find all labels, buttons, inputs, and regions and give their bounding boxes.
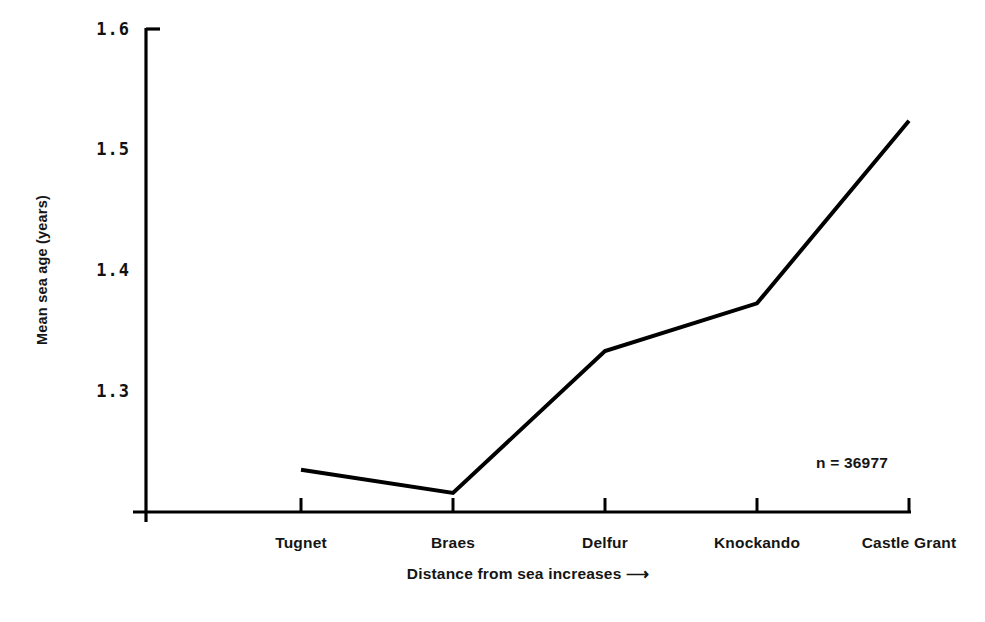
y-tick-label-1-6: 1.6 xyxy=(62,19,130,39)
x-axis-title: Distance from sea increases ⟶ xyxy=(146,565,910,583)
x-tick-label-castle-grant: Castle Grant xyxy=(862,534,957,552)
y-tick-label-1-3: 1.3 xyxy=(62,381,130,401)
y-tick-label-1-4: 1.4 xyxy=(62,260,130,280)
chart-figure: 1.6 1.5 1.4 1.3 Tugnet Braes Delfur Knoc… xyxy=(0,0,985,622)
x-tick-label-braes: Braes xyxy=(431,534,475,552)
x-tick-label-delfur: Delfur xyxy=(582,534,628,552)
sample-size-annotation: n = 36977 xyxy=(816,454,888,472)
y-axis-title: Mean sea age (years) xyxy=(34,120,50,420)
data-series-line xyxy=(301,121,909,493)
y-tick-label-1-5: 1.5 xyxy=(62,139,130,159)
x-tick-label-tugnet: Tugnet xyxy=(275,534,327,552)
x-tick-label-knockando: Knockando xyxy=(714,534,800,552)
chart-plot-area xyxy=(0,0,985,622)
